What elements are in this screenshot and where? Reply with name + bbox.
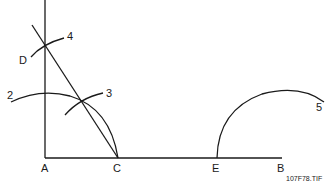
arc-2 <box>11 93 118 158</box>
label-arc-4: 4 <box>67 30 73 42</box>
construction-diagram: A C E B D 2 3 4 5 107F78.TIF <box>0 0 329 188</box>
label-arc-5: 5 <box>316 101 322 113</box>
label-point-c: C <box>113 162 121 174</box>
arc-5 <box>217 90 324 158</box>
label-point-a: A <box>41 162 49 174</box>
label-point-e: E <box>212 162 219 174</box>
label-point-d: D <box>19 54 27 66</box>
arc-4 <box>31 38 64 57</box>
figure-caption: 107F78.TIF <box>286 175 322 182</box>
label-arc-3: 3 <box>106 87 112 99</box>
label-arc-2: 2 <box>7 89 13 101</box>
label-point-b: B <box>277 162 284 174</box>
